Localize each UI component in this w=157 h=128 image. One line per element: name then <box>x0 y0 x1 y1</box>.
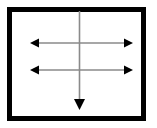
arrow-diagram-svg <box>0 0 157 128</box>
diagram-canvas <box>0 0 157 128</box>
